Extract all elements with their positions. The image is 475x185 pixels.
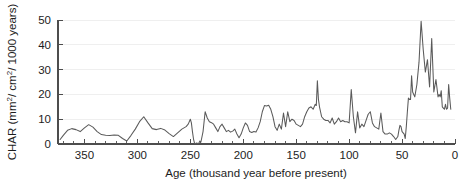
y-axis-title-prefix: CHAR (mm (6, 101, 18, 160)
x-tick-label: 200 (234, 149, 253, 161)
y-axis-title-suffix: / 1000 years) (6, 4, 18, 71)
y-tick-label: 0 (45, 138, 51, 150)
char-line-chart: 350300250200150100500 01020304050 Age (t… (0, 0, 475, 185)
x-tick-label: 350 (75, 149, 94, 161)
x-axis-title: Age (thousand year before present) (165, 167, 347, 179)
y-tick-label: 50 (38, 14, 51, 26)
chart-figure: 350300250200150100500 01020304050 Age (t… (0, 0, 475, 185)
y-axis-title: CHAR (mm2/ cm2/ 1000 years) (5, 4, 18, 161)
x-tick-label: 100 (340, 149, 359, 161)
y-axis-title-mid: / cm (6, 75, 18, 97)
x-tick-label: 50 (396, 149, 409, 161)
y-tick-label: 10 (38, 113, 51, 125)
x-tick-label: 250 (181, 149, 200, 161)
y-tick-label: 30 (38, 64, 51, 76)
x-tick-label: 300 (128, 149, 147, 161)
x-tick-label: 0 (452, 149, 458, 161)
y-tick-label: 20 (38, 88, 51, 100)
x-tick-label: 150 (287, 149, 306, 161)
y-tick-label: 40 (38, 39, 51, 51)
